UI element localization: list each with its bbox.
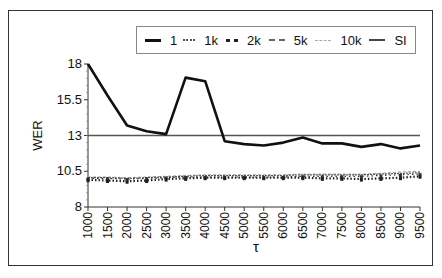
y-tick-label: 13 [42,128,82,143]
x-tick-label: 1000 [81,212,95,239]
x-tick-label: 4500 [218,212,232,239]
x-tick-label: 8500 [374,212,388,239]
x-tick-label: 5500 [257,212,271,239]
x-tick-label: 9500 [413,212,427,239]
y-tick-label: 18 [42,56,82,71]
x-tick-label: 3500 [179,212,193,239]
x-tick-label: 2500 [140,212,154,239]
x-tick-label: 5000 [237,212,251,239]
x-tick-label: 3000 [159,212,173,239]
y-tick-label: 10.5 [42,163,82,178]
x-tick-label: 9000 [393,212,407,239]
x-tick-label: 7000 [315,212,329,239]
x-tick-label: 7500 [335,212,349,239]
y-tick-label: 8 [42,199,82,214]
x-tick-label: 2000 [120,212,134,239]
x-tick-label: 6000 [276,212,290,239]
x-tick-label: 4000 [198,212,212,239]
x-tick-label: 1500 [101,212,115,239]
x-tick-label: 6500 [296,212,310,239]
y-tick-label: 15.5 [42,92,82,107]
x-tick-label: 8000 [354,212,368,239]
